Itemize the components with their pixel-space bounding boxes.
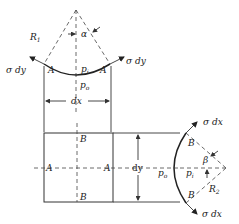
point-a-left: A [47, 65, 55, 75]
element-square [44, 133, 113, 202]
force-arrow-bottom [186, 203, 197, 214]
alpha-arrow-right [93, 27, 100, 32]
inner-pressure-label: pi [81, 64, 89, 75]
force-label-right: σ dy [126, 56, 147, 66]
force-label-top: σ dx [203, 117, 223, 127]
force-arrow-left [30, 57, 44, 64]
radius-line-left [44, 10, 76, 64]
point-b-top: B [79, 134, 87, 144]
dx-label: dx [71, 96, 82, 106]
beta-arrow-top [211, 151, 218, 156]
inner-pressure-label: pi [186, 168, 194, 179]
radius-label-r2: R2 [208, 184, 220, 195]
point-a-right: A [103, 163, 111, 173]
dy-label: dy [132, 163, 144, 173]
radius-label-r1: R1 [29, 32, 41, 43]
force-arrow-right [110, 57, 124, 64]
point-a-right: A [99, 65, 107, 75]
outer-pressure-label: po [80, 80, 90, 91]
force-label-left: σ dy [6, 65, 27, 75]
point-a-left: A [45, 163, 53, 173]
point-b-bottom: B [187, 190, 195, 200]
alpha-label: α [81, 29, 87, 39]
point-b-top: B [187, 138, 195, 148]
shell-element-diagram: R1 α A A pi po σ dy σ dy dx B B A A dy B… [0, 0, 239, 224]
top-view: R1 α A A pi po σ dy σ dy dx [6, 10, 147, 132]
beta-label: β [202, 155, 208, 165]
front-view: B B A A dy [34, 123, 180, 202]
outer-pressure-label: po [158, 168, 168, 179]
point-b-bottom: B [79, 192, 87, 202]
force-arrow-top [186, 122, 197, 133]
force-label-bottom: σ dx [202, 209, 222, 219]
